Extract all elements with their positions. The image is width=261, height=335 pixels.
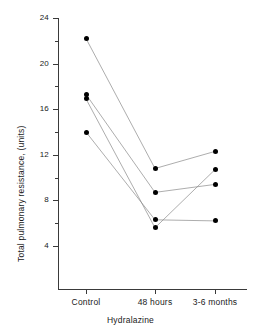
chart-figure: 4812162024 Control48 hours3-6 months Tot… [0, 0, 261, 335]
data-point [153, 217, 158, 222]
series-segment [86, 99, 155, 228]
series-segment [86, 39, 155, 169]
data-point [213, 218, 218, 223]
plot-lines [0, 0, 261, 335]
series-segment [155, 184, 215, 192]
data-point [153, 225, 158, 230]
series-segment [155, 220, 215, 221]
data-point [84, 36, 89, 41]
series-segment [155, 151, 215, 168]
series-segment [86, 132, 155, 220]
data-point [84, 130, 89, 135]
series-segment [155, 170, 215, 228]
data-point [153, 166, 158, 171]
series-segment [86, 94, 155, 192]
data-point [213, 149, 218, 154]
data-point [153, 190, 158, 195]
data-point [213, 167, 218, 172]
data-point [213, 182, 218, 187]
data-point [84, 96, 89, 101]
